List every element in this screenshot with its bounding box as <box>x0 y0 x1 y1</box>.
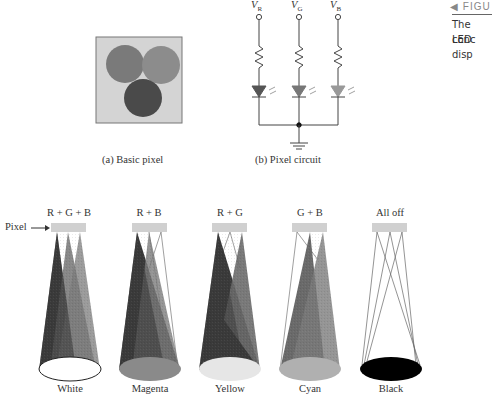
figure-tag: ◀ FIGU <box>450 1 491 12</box>
voltage-label-r: VR <box>251 0 262 13</box>
cone-title-rb: R + B <box>124 207 174 218</box>
result-black: Black <box>366 383 416 394</box>
cone-black <box>360 223 422 381</box>
caption-basic-pixel: (a) Basic pixel <box>102 154 163 165</box>
voltage-subscript: B <box>336 5 341 13</box>
basic-pixel-diagram <box>96 37 182 123</box>
red-subpixel <box>106 45 144 83</box>
blue-subpixel <box>142 46 180 84</box>
cone-title-rgb: R + G + B <box>44 207 94 218</box>
green-subpixel <box>124 79 162 117</box>
voltage-subscript: R <box>257 5 262 13</box>
figure-rule <box>452 14 492 15</box>
result-magenta: Magenta <box>125 383 175 394</box>
cone-cyan <box>279 223 341 381</box>
figure-graphics <box>0 0 492 399</box>
voltage-label-b: VB <box>330 0 341 13</box>
pixel-arrow <box>31 225 50 231</box>
caption-pixel-circuit: (b) Pixel circuit <box>255 154 321 165</box>
cone-white <box>39 223 101 381</box>
cone-yellow <box>199 223 261 381</box>
voltage-label-g: VG <box>291 0 302 13</box>
pixel-circuit-diagram <box>252 14 355 149</box>
cone-title-rg: R + G <box>205 207 255 218</box>
result-white: White <box>45 383 95 394</box>
cone-magenta <box>119 223 181 381</box>
result-cyan: Cyan <box>285 383 335 394</box>
cone-title-gb: G + B <box>285 207 335 218</box>
voltage-subscript: G <box>297 5 302 13</box>
result-yellow: Yellow <box>205 383 255 394</box>
cone-title-all-off: All off <box>365 207 415 218</box>
figure-text-line-2: LED disp <box>452 32 492 62</box>
pixel-label: Pixel <box>5 221 27 232</box>
